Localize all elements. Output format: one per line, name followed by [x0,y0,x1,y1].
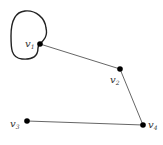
label-v1: v1 [25,38,34,50]
vertex-v4 [140,122,146,128]
label-v4: v4 [148,119,158,131]
vertex-v2 [117,66,123,72]
label-v3: v3 [10,118,20,130]
vertex-v1 [37,41,43,47]
edge-v1-v2 [40,44,120,69]
vertex-v3 [24,118,30,124]
graph-diagram: v1 v2 v3 v4 [0,0,163,145]
edge-v3-v4 [27,121,143,125]
loop-edge-v1 [11,11,47,59]
label-v2: v2 [110,74,120,86]
edge-v2-v4 [120,69,143,125]
